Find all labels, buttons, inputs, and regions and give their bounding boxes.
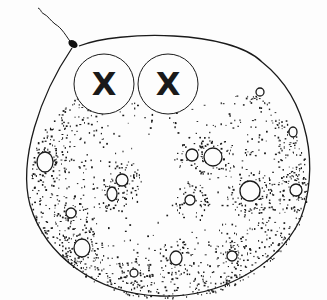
flagellum [38,8,72,44]
vacuole [185,195,195,205]
vacuole [74,239,90,257]
nucleus: X [74,54,134,114]
cytoplasm-granules [30,95,310,300]
vacuole [290,184,302,196]
chromosome-mark: X [156,65,181,103]
vacuole [186,149,198,161]
vacuole [116,174,128,186]
vacuole [227,251,237,261]
chromosome-mark: X [92,65,117,103]
vacuole [256,88,264,96]
vacuole [107,187,117,201]
vacuole [66,208,76,218]
vacuoles [37,88,302,277]
vacuole [37,152,53,172]
vacuole [204,148,222,166]
vacuole [170,251,182,265]
vacuole [240,181,260,201]
vacuole [289,127,297,137]
cell-figure: XX [0,0,327,300]
nucleus: X [138,54,198,114]
vacuole [130,269,138,277]
nuclei: XX [74,54,198,114]
